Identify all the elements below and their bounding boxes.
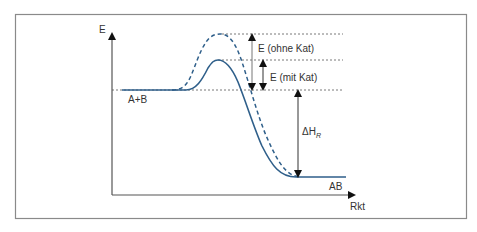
energy-diagram: E Rkt A+B AB E (ohne Kat) E (mit Kat) ΔH… bbox=[0, 0, 477, 232]
y-axis-label: E bbox=[99, 24, 106, 35]
reactants-label: A+B bbox=[128, 94, 148, 105]
x-axis-label: Rkt bbox=[350, 201, 365, 212]
enthalpy-label-main: ΔH bbox=[302, 126, 316, 137]
figure-frame bbox=[16, 15, 467, 219]
enthalpy-label: ΔHR bbox=[302, 126, 321, 139]
curve-uncatalyzed bbox=[172, 34, 300, 177]
product-label: AB bbox=[329, 181, 343, 192]
activation-catalyzed-label: E (mit Kat) bbox=[270, 72, 317, 83]
activation-uncatalyzed-label: E (ohne Kat) bbox=[258, 43, 314, 54]
enthalpy-label-subscript: R bbox=[316, 132, 321, 139]
